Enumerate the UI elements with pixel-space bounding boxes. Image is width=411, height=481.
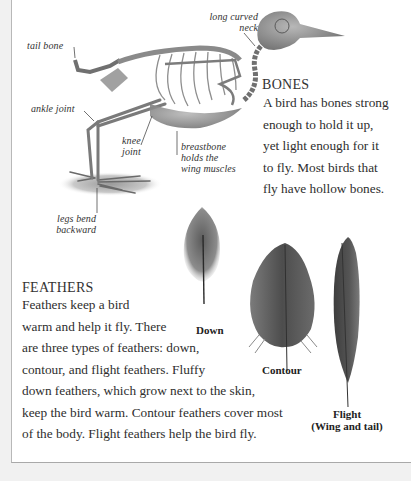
skull bbox=[257, 11, 345, 50]
text-line: warm and help it fly. There bbox=[22, 316, 283, 338]
bones-paragraph: A bird has bones strong enough to hold i… bbox=[263, 92, 389, 200]
label-line: long curved bbox=[190, 11, 258, 22]
label-ankle-joint: ankle joint bbox=[31, 103, 75, 114]
feathers-paragraph: Feathers keep a bird warm and help it fl… bbox=[22, 294, 283, 445]
ground-shadow bbox=[58, 172, 162, 196]
text-line: to fly. Most birds that bbox=[263, 157, 389, 179]
text-line: keep the bird warm. Contour feathers cov… bbox=[22, 402, 283, 424]
caption-flight-title: Flight bbox=[297, 408, 397, 420]
label-line: holds the bbox=[181, 152, 236, 163]
label-tail-bone: tail bone bbox=[27, 40, 63, 51]
breastbone bbox=[150, 104, 242, 128]
label-line: joint bbox=[122, 146, 141, 157]
down-feather-image bbox=[180, 205, 240, 305]
label-line: neck bbox=[190, 22, 258, 33]
label-line: backward bbox=[34, 224, 96, 235]
text-line: contour, and flight feathers. Fluffy bbox=[22, 359, 283, 381]
text-line: enough to hold it up, bbox=[263, 114, 389, 136]
label-line: wing muscles bbox=[181, 163, 236, 174]
label-legs-bend: legs bend backward bbox=[34, 213, 96, 235]
label-line: knee bbox=[122, 135, 141, 146]
label-long-curved-neck: long curved neck bbox=[190, 11, 258, 33]
text-line: of the body. Flight feathers help the bi… bbox=[22, 423, 283, 445]
text-line: A bird has bones strong bbox=[263, 92, 389, 114]
neck bbox=[244, 45, 262, 100]
text-line: are three types of feathers: down, bbox=[22, 337, 283, 359]
label-breastbone: breastbone holds the wing muscles bbox=[181, 141, 236, 174]
label-line: legs bend bbox=[34, 213, 96, 224]
text-line: fly have hollow bones. bbox=[263, 178, 389, 200]
bones-heading: BONES bbox=[262, 77, 309, 93]
text-line: yet light enough for it bbox=[263, 135, 389, 157]
caption-flight: Flight (Wing and tail) bbox=[297, 408, 397, 432]
tail-bone bbox=[75, 60, 120, 72]
text-line: down feathers, which grow next to the sk… bbox=[22, 380, 283, 402]
label-line: breastbone bbox=[181, 141, 236, 152]
caption-flight-subtitle: (Wing and tail) bbox=[297, 420, 397, 432]
text-line: Feathers keep a bird bbox=[22, 294, 283, 316]
flight-feather-image bbox=[328, 237, 368, 417]
label-knee-joint: knee joint bbox=[122, 135, 141, 157]
